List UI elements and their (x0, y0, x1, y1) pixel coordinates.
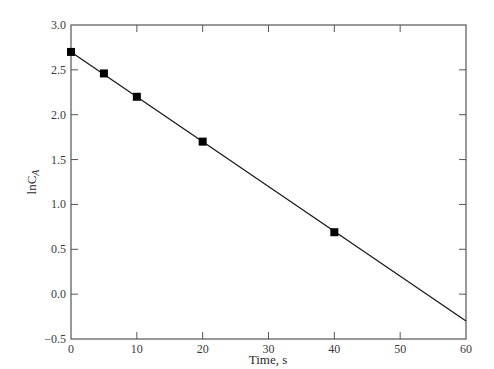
fit-line (71, 52, 466, 321)
y-tick-label: 1.0 (51, 197, 66, 211)
data-point-marker (133, 93, 141, 101)
data-point-marker (67, 48, 75, 56)
data-point-marker (330, 228, 338, 236)
x-tick-label: 0 (68, 342, 74, 356)
x-tick-label: 20 (197, 342, 209, 356)
y-tick-label: 2.0 (51, 108, 66, 122)
axis-ticks: 0102030405060−0.50.00.51.01.52.02.53.0 (44, 18, 472, 356)
data-point-marker (199, 138, 207, 146)
x-axis-label: Time, s (249, 352, 288, 367)
x-tick-label: 50 (394, 342, 406, 356)
y-axis-label-main: lnC (24, 176, 39, 195)
y-axis-label: lnCA (24, 169, 41, 195)
plot-border (71, 25, 466, 339)
x-tick-label: 40 (328, 342, 340, 356)
x-tick-label: 10 (131, 342, 143, 356)
plot-frame (71, 25, 466, 339)
y-tick-label: 0.5 (51, 242, 66, 256)
chart: 0102030405060−0.50.00.51.01.52.02.53.0 T… (0, 0, 494, 369)
y-axis-label-subscript: A (30, 169, 41, 177)
y-tick-label: 3.0 (51, 18, 66, 32)
y-tick-label: 0.0 (51, 287, 66, 301)
data-point-marker (100, 69, 108, 77)
x-tick-label: 60 (460, 342, 472, 356)
data-series (67, 48, 466, 321)
y-tick-label: 1.5 (51, 153, 66, 167)
y-tick-label: −0.5 (44, 332, 66, 346)
y-tick-label: 2.5 (51, 63, 66, 77)
